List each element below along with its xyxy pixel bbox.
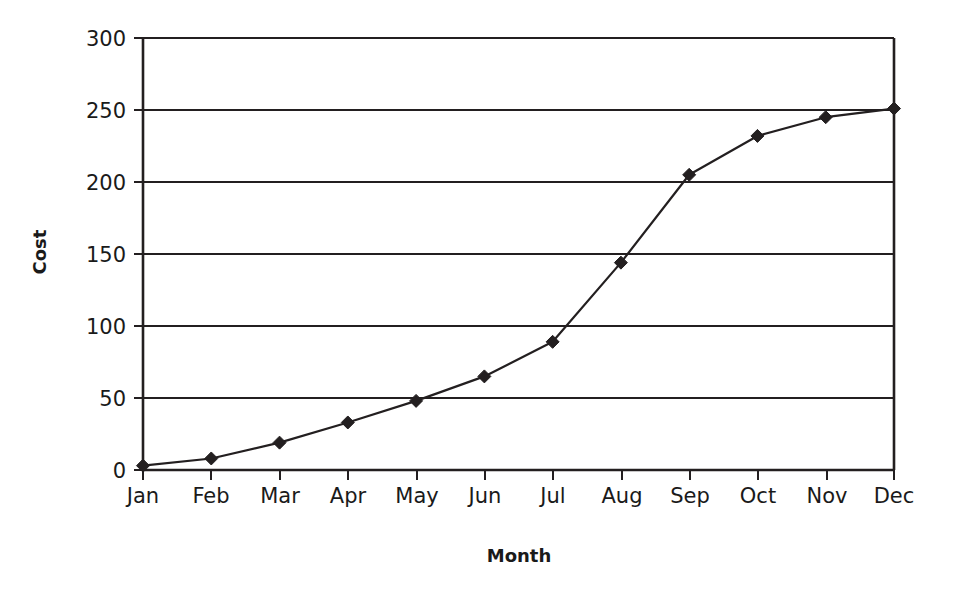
x-tick-label-nov: Nov [807, 484, 848, 508]
x-axis-title: Month [487, 545, 552, 566]
y-tick-label-100: 100 [86, 315, 126, 339]
x-tick-label-mar: Mar [260, 484, 300, 508]
x-tick-label-jun: Jun [467, 484, 502, 508]
x-tick-label-dec: Dec [874, 484, 915, 508]
y-tick-label-50: 50 [99, 387, 126, 411]
x-tick-label-jul: Jul [538, 484, 565, 508]
x-tick-label-aug: Aug [601, 484, 642, 508]
chart-canvas: 300 250 200 150 100 50 0 Jan Feb Mar Apr… [0, 0, 954, 598]
y-tick-label-250: 250 [86, 99, 126, 123]
x-tick-label-may: May [395, 484, 438, 508]
x-tick-label-jan: Jan [125, 484, 159, 508]
y-tick-label-300: 300 [86, 27, 126, 51]
y-tick-label-200: 200 [86, 171, 126, 195]
x-tick-label-feb: Feb [192, 484, 229, 508]
x-tick-label-oct: Oct [740, 484, 776, 508]
x-tick-label-apr: Apr [330, 484, 367, 508]
line-chart-figure: 300 250 200 150 100 50 0 Jan Feb Mar Apr… [0, 0, 954, 598]
y-axis-title: Cost [29, 229, 50, 274]
y-tick-label-0: 0 [113, 459, 126, 483]
y-tick-label-150: 150 [86, 243, 126, 267]
x-tick-label-sep: Sep [670, 484, 710, 508]
